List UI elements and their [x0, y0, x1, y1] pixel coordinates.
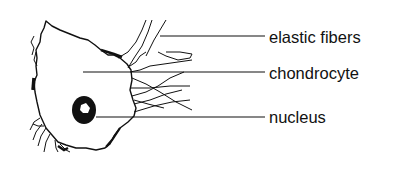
label-nucleus: nucleus: [269, 109, 326, 126]
cartilage-cell-diagram: [0, 0, 398, 171]
label-chondrocyte: chondrocyte: [269, 65, 359, 82]
label-elastic-fibers: elastic fibers: [269, 29, 361, 46]
chondrocyte-outline: [34, 21, 136, 150]
cell-edge-shading-left: [33, 78, 34, 90]
nucleus-shape: [72, 96, 96, 124]
